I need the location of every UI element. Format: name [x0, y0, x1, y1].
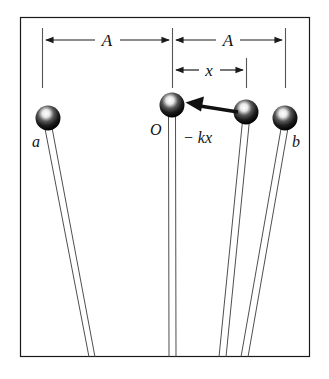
figure-container: A A x [0, 0, 329, 379]
bob-b [273, 106, 298, 131]
string-o-left [169, 114, 170, 357]
figure-frame [21, 18, 310, 357]
label-amplitude-left: A [101, 31, 113, 50]
string-o-right [176, 114, 177, 357]
label-bob-o: O [150, 121, 162, 138]
bob-a [36, 106, 61, 131]
label-bob-a: a [32, 133, 40, 150]
label-restoring-force: − kx [183, 129, 212, 146]
label-displacement: x [204, 61, 213, 80]
label-bob-b: b [292, 133, 300, 150]
bob-o [160, 93, 185, 118]
label-amplitude-right: A [222, 31, 234, 50]
pendulum-diagram: A A x [0, 0, 329, 379]
